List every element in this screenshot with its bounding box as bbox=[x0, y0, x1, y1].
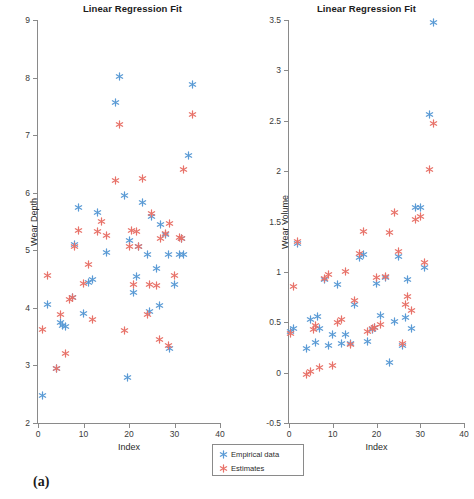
y-tick bbox=[33, 135, 38, 136]
legend-entry-estimates: Estimates bbox=[216, 461, 303, 475]
y-tick-label: 2 bbox=[276, 166, 281, 176]
y-tick bbox=[33, 78, 38, 79]
y-tick-label: 1 bbox=[276, 267, 281, 277]
y-tick bbox=[33, 308, 38, 309]
y-tick-label: 6 bbox=[25, 188, 30, 198]
panel-b: Linear Regression Fit Wear Volume Index … bbox=[237, 0, 474, 460]
x-tick bbox=[175, 423, 176, 428]
x-tick-label: 30 bbox=[416, 429, 425, 439]
legend-label-estimates: Estimates bbox=[231, 464, 264, 473]
x-tick bbox=[289, 423, 290, 428]
y-tick bbox=[284, 222, 289, 223]
x-axis-title-a: Index bbox=[118, 442, 140, 452]
panel-a: Linear Regression Fit Wear Depth Index 2… bbox=[0, 0, 237, 460]
y-tick-label: 3 bbox=[25, 360, 30, 370]
asterisk-icon-estimates bbox=[216, 463, 231, 473]
x-tick-label: 10 bbox=[79, 429, 88, 439]
subcaption-a: (a) bbox=[33, 474, 49, 490]
x-tick bbox=[38, 423, 39, 428]
y-tick bbox=[33, 365, 38, 366]
y-tick-label: 3 bbox=[276, 65, 281, 75]
x-tick bbox=[220, 423, 221, 428]
y-tick-label: 5 bbox=[25, 245, 30, 255]
scatter-points-b bbox=[289, 20, 464, 423]
y-tick-label: 1.5 bbox=[269, 217, 281, 227]
legend-label-empirical: Empirical data bbox=[231, 450, 279, 459]
plot-area-a: Wear Depth Index 23456789010203040 bbox=[37, 20, 220, 424]
x-tick-label: 20 bbox=[372, 429, 381, 439]
y-tick bbox=[284, 70, 289, 71]
y-tick bbox=[284, 171, 289, 172]
scatter-points-a bbox=[38, 20, 220, 423]
x-tick bbox=[464, 423, 465, 428]
y-tick-label: 2 bbox=[25, 418, 30, 428]
x-tick-label: 40 bbox=[215, 429, 224, 439]
y-tick bbox=[284, 373, 289, 374]
x-tick-label: 0 bbox=[287, 429, 292, 439]
legend-entry-empirical: Empirical data bbox=[216, 447, 303, 461]
y-tick bbox=[284, 322, 289, 323]
y-tick-label: 3.5 bbox=[269, 15, 281, 25]
y-tick-label: 4 bbox=[25, 303, 30, 313]
y-tick-label: -0.5 bbox=[266, 418, 281, 428]
y-tick bbox=[33, 250, 38, 251]
plot-area-b: Wear Volume Index -0.500.511.522.533.501… bbox=[288, 20, 464, 424]
y-tick-label: 8 bbox=[25, 73, 30, 83]
x-tick bbox=[420, 423, 421, 428]
y-tick-label: 0 bbox=[276, 368, 281, 378]
x-tick bbox=[129, 423, 130, 428]
x-tick bbox=[377, 423, 378, 428]
y-tick-label: 0.5 bbox=[269, 317, 281, 327]
asterisk-icon-empirical bbox=[216, 449, 231, 459]
x-tick bbox=[333, 423, 334, 428]
y-tick bbox=[33, 193, 38, 194]
x-tick-label: 30 bbox=[170, 429, 179, 439]
x-tick-label: 40 bbox=[459, 429, 468, 439]
chart-title-b: Linear Regression Fit bbox=[237, 3, 474, 14]
y-axis-title-a: Wear Depth bbox=[29, 198, 39, 246]
y-tick-label: 9 bbox=[25, 15, 30, 25]
y-tick-label: 7 bbox=[25, 130, 30, 140]
y-tick bbox=[284, 20, 289, 21]
x-tick-label: 10 bbox=[328, 429, 337, 439]
x-axis-title-b: Index bbox=[365, 442, 387, 452]
legend: Empirical data Estimates bbox=[212, 444, 304, 476]
figure-linear-regression-fit: Linear Regression Fit Wear Depth Index 2… bbox=[0, 0, 474, 499]
chart-title-a: Linear Regression Fit bbox=[0, 3, 237, 14]
y-tick bbox=[33, 20, 38, 21]
x-tick bbox=[84, 423, 85, 428]
x-tick-label: 0 bbox=[36, 429, 41, 439]
y-tick bbox=[284, 272, 289, 273]
y-tick-label: 2.5 bbox=[269, 116, 281, 126]
x-tick-label: 20 bbox=[124, 429, 133, 439]
y-tick bbox=[284, 121, 289, 122]
